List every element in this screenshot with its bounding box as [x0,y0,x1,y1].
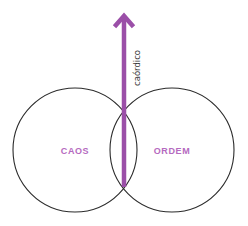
order-label: ORDEM [154,146,191,156]
chaos-label: CAOS [61,146,89,156]
caordic-diagram: CAOS ORDEM caórdico [0,0,248,226]
caordic-axis-label: caórdico [132,50,142,86]
diagram-graphics [0,0,248,226]
